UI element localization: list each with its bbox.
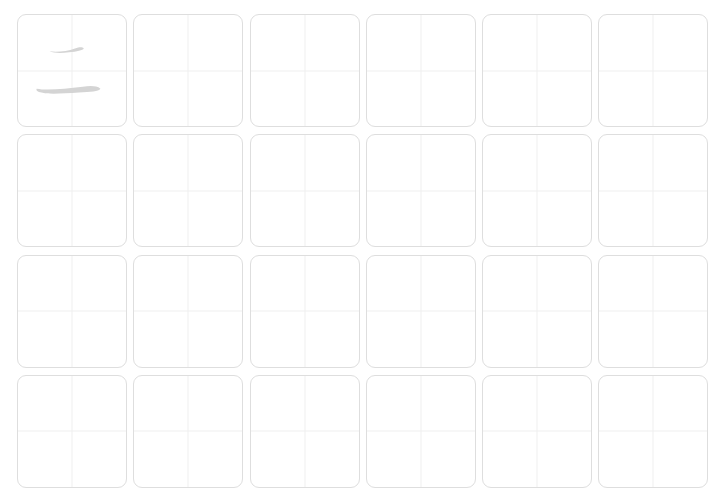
horizontal-guide-line xyxy=(483,70,591,71)
horizontal-guide-line xyxy=(134,70,242,71)
horizontal-guide-line xyxy=(483,431,591,432)
practice-cell[interactable] xyxy=(598,14,708,127)
practice-cell[interactable] xyxy=(250,375,360,488)
practice-cell[interactable] xyxy=(133,134,243,247)
horizontal-guide-line xyxy=(18,190,126,191)
practice-cell[interactable] xyxy=(366,134,476,247)
trace-character-er xyxy=(18,15,126,126)
practice-cell[interactable] xyxy=(133,375,243,488)
horizontal-guide-line xyxy=(367,190,475,191)
practice-cell[interactable] xyxy=(17,375,127,488)
horizontal-guide-line xyxy=(367,311,475,312)
horizontal-guide-line xyxy=(251,70,359,71)
horizontal-guide-line xyxy=(599,311,707,312)
horizontal-guide-line xyxy=(599,190,707,191)
horizontal-guide-line xyxy=(134,431,242,432)
horizontal-guide-line xyxy=(251,311,359,312)
practice-cell[interactable] xyxy=(17,14,127,127)
practice-cell[interactable] xyxy=(17,255,127,368)
practice-cell[interactable] xyxy=(366,14,476,127)
practice-cell[interactable] xyxy=(133,14,243,127)
horizontal-guide-line xyxy=(134,311,242,312)
horizontal-guide-line xyxy=(599,70,707,71)
practice-grid xyxy=(17,14,708,488)
practice-cell[interactable] xyxy=(250,134,360,247)
horizontal-guide-line xyxy=(367,70,475,71)
horizontal-guide-line xyxy=(483,311,591,312)
practice-cell[interactable] xyxy=(598,134,708,247)
horizontal-guide-line xyxy=(251,190,359,191)
practice-cell[interactable] xyxy=(366,375,476,488)
horizontal-guide-line xyxy=(18,431,126,432)
practice-cell[interactable] xyxy=(598,255,708,368)
horizontal-guide-line xyxy=(483,190,591,191)
horizontal-guide-line xyxy=(18,311,126,312)
practice-cell[interactable] xyxy=(133,255,243,368)
practice-cell[interactable] xyxy=(250,14,360,127)
horizontal-guide-line xyxy=(599,431,707,432)
horizontal-guide-line xyxy=(367,431,475,432)
practice-cell[interactable] xyxy=(482,134,592,247)
practice-cell[interactable] xyxy=(598,375,708,488)
horizontal-guide-line xyxy=(134,190,242,191)
horizontal-guide-line xyxy=(251,431,359,432)
practice-cell[interactable] xyxy=(17,134,127,247)
practice-cell[interactable] xyxy=(366,255,476,368)
practice-cell[interactable] xyxy=(482,255,592,368)
practice-cell[interactable] xyxy=(482,375,592,488)
practice-cell[interactable] xyxy=(482,14,592,127)
practice-cell[interactable] xyxy=(250,255,360,368)
